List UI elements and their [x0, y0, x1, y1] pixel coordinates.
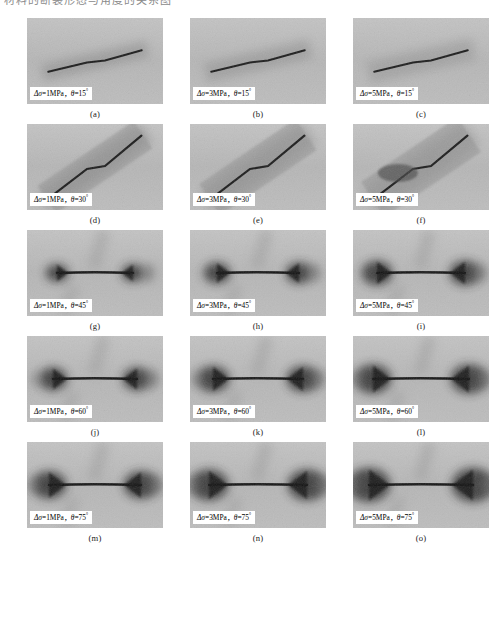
figure-row: Δσ=1MPa，θ=15°(a)Δσ=3MPa，θ=15°(b)Δσ=5MPa，…	[0, 18, 490, 120]
panel-condition-label: Δσ=1MPa，θ=45°	[30, 299, 92, 312]
subfigure-caption: (d)	[27, 210, 163, 226]
subfigure-caption: (o)	[353, 528, 489, 544]
figure-cell-n: Δσ=3MPa，θ=75°(n)	[190, 442, 326, 544]
figure-cell-c: Δσ=5MPa，θ=15°(c)	[353, 18, 489, 120]
subfigure-caption: (b)	[190, 104, 326, 120]
panel-condition-label: Δσ=5MPa，θ=30°	[356, 193, 418, 206]
panel-condition-label: Δσ=1MPa，θ=15°	[30, 87, 92, 100]
figure-cell-a: Δσ=1MPa，θ=15°(a)	[27, 18, 163, 120]
figure-grid: Δσ=1MPa，θ=15°(a)Δσ=3MPa，θ=15°(b)Δσ=5MPa，…	[0, 18, 490, 548]
figure-cell-d: Δσ=1MPa，θ=30°(d)	[27, 124, 163, 226]
subfigure-caption: (e)	[190, 210, 326, 226]
panel-condition-label: Δσ=3MPa，θ=15°	[193, 87, 255, 100]
specimen-image-h: Δσ=3MPa，θ=45°	[190, 230, 326, 316]
panel-condition-label: Δσ=5MPa，θ=45°	[356, 299, 418, 312]
figure-row: Δσ=1MPa，θ=60°(j)Δσ=3MPa，θ=60°(k)Δσ=5MPa，…	[0, 336, 490, 438]
specimen-image-g: Δσ=1MPa，θ=45°	[27, 230, 163, 316]
subfigure-caption: (m)	[27, 528, 163, 544]
figure-cell-f: Δσ=5MPa，θ=30°(f)	[353, 124, 489, 226]
figure-row: Δσ=1MPa，θ=30°(d)Δσ=3MPa，θ=30°(e)Δσ=5MPa，…	[0, 124, 490, 226]
panel-condition-label: Δσ=5MPa，θ=75°	[356, 511, 418, 524]
truncated-header-text: 材料的断裂形态与角度的关系图	[0, 0, 490, 9]
subfigure-caption: (c)	[353, 104, 489, 120]
subfigure-caption: (i)	[353, 316, 489, 332]
panel-condition-label: Δσ=3MPa，θ=45°	[193, 299, 255, 312]
subfigure-caption: (n)	[190, 528, 326, 544]
figure-cell-h: Δσ=3MPa，θ=45°(h)	[190, 230, 326, 332]
figure-cell-i: Δσ=5MPa，θ=45°(i)	[353, 230, 489, 332]
panel-condition-label: Δσ=1MPa，θ=60°	[30, 405, 92, 418]
specimen-image-k: Δσ=3MPa，θ=60°	[190, 336, 326, 422]
specimen-image-o: Δσ=5MPa，θ=75°	[353, 442, 489, 528]
specimen-image-a: Δσ=1MPa，θ=15°	[27, 18, 163, 104]
subfigure-caption: (h)	[190, 316, 326, 332]
panel-condition-label: Δσ=5MPa，θ=60°	[356, 405, 418, 418]
figure-row: Δσ=1MPa，θ=75°(m)Δσ=3MPa，θ=75°(n)Δσ=5MPa，…	[0, 442, 490, 544]
specimen-image-f: Δσ=5MPa，θ=30°	[353, 124, 489, 210]
figure-cell-j: Δσ=1MPa，θ=60°(j)	[27, 336, 163, 438]
truncated-header-label: 材料的断裂形态与角度的关系图	[4, 0, 172, 7]
subfigure-caption: (l)	[353, 422, 489, 438]
panel-condition-label: Δσ=1MPa，θ=30°	[30, 193, 92, 206]
panel-condition-label: Δσ=3MPa，θ=75°	[193, 511, 255, 524]
specimen-image-m: Δσ=1MPa，θ=75°	[27, 442, 163, 528]
specimen-image-j: Δσ=1MPa，θ=60°	[27, 336, 163, 422]
specimen-image-i: Δσ=5MPa，θ=45°	[353, 230, 489, 316]
figure-cell-b: Δσ=3MPa，θ=15°(b)	[190, 18, 326, 120]
specimen-image-e: Δσ=3MPa，θ=30°	[190, 124, 326, 210]
subfigure-caption: (f)	[353, 210, 489, 226]
figure-cell-o: Δσ=5MPa，θ=75°(o)	[353, 442, 489, 544]
subfigure-caption: (k)	[190, 422, 326, 438]
panel-condition-label: Δσ=3MPa，θ=60°	[193, 405, 255, 418]
subfigure-caption: (a)	[27, 104, 163, 120]
panel-condition-label: Δσ=5MPa，θ=15°	[356, 87, 418, 100]
specimen-image-n: Δσ=3MPa，θ=75°	[190, 442, 326, 528]
panel-condition-label: Δσ=3MPa，θ=30°	[193, 193, 255, 206]
figure-row: Δσ=1MPa，θ=45°(g)Δσ=3MPa，θ=45°(h)Δσ=5MPa，…	[0, 230, 490, 332]
figure-cell-k: Δσ=3MPa，θ=60°(k)	[190, 336, 326, 438]
figure-cell-m: Δσ=1MPa，θ=75°(m)	[27, 442, 163, 544]
specimen-image-d: Δσ=1MPa，θ=30°	[27, 124, 163, 210]
figure-cell-g: Δσ=1MPa，θ=45°(g)	[27, 230, 163, 332]
specimen-image-l: Δσ=5MPa，θ=60°	[353, 336, 489, 422]
subfigure-caption: (j)	[27, 422, 163, 438]
figure-cell-l: Δσ=5MPa，θ=60°(l)	[353, 336, 489, 438]
specimen-image-c: Δσ=5MPa，θ=15°	[353, 18, 489, 104]
figure-cell-e: Δσ=3MPa，θ=30°(e)	[190, 124, 326, 226]
specimen-image-b: Δσ=3MPa，θ=15°	[190, 18, 326, 104]
panel-condition-label: Δσ=1MPa，θ=75°	[30, 511, 92, 524]
subfigure-caption: (g)	[27, 316, 163, 332]
